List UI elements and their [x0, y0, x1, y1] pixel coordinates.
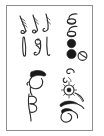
hooked-plume-glyph	[32, 15, 38, 33]
plate-content	[7, 6, 92, 130]
filled-blade-glyph	[60, 101, 84, 108]
solid-dot-glyph	[67, 39, 75, 47]
spiral-eye-glyph	[62, 82, 77, 98]
ladle-filled-glyph	[67, 26, 77, 36]
glyph-cluster-top-right	[57, 12, 93, 64]
profile-head-glyph	[27, 70, 46, 88]
double-scroll-glyph	[28, 94, 36, 121]
plate-border	[6, 5, 93, 131]
glyph-cluster-top-left	[15, 12, 57, 64]
coiled-loop-glyph	[34, 39, 41, 55]
ladle-outline-glyph	[67, 14, 77, 24]
tall-hook-glyph	[43, 14, 51, 31]
feather-plume-glyph	[20, 16, 27, 34]
crossed-circle-glyph	[78, 52, 87, 61]
swept-wing-glyph	[75, 93, 84, 102]
curled-tail-glyph	[61, 109, 78, 123]
glyph-cluster-bottom-left	[17, 68, 57, 126]
small-hook-glyph	[67, 69, 74, 74]
glyph-cluster-bottom-right	[55, 66, 95, 126]
right-tall-stroke-glyph	[47, 37, 50, 56]
tiny-arc-glyph	[63, 78, 71, 83]
image-canvas	[0, 0, 104, 136]
vertical-stroke-glyph	[23, 37, 26, 56]
solid-dot-glyph	[67, 49, 76, 58]
